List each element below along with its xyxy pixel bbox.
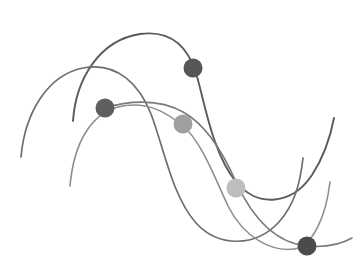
marker-center-mid xyxy=(174,115,193,134)
marker-bottom-dark xyxy=(298,237,317,256)
marker-left-dark xyxy=(96,99,115,118)
marker-top-dark xyxy=(184,59,203,78)
background-rect xyxy=(0,0,359,278)
abstract-curve-graphic xyxy=(0,0,359,278)
illustration-canvas xyxy=(0,0,359,278)
marker-center-light xyxy=(227,179,246,198)
